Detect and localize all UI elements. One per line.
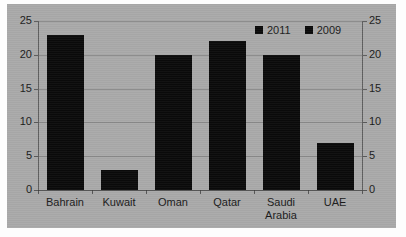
bar-uae: [317, 143, 354, 190]
y-tick-label-left-25: 25: [12, 15, 32, 26]
y-tick-label-right-10: 10: [369, 116, 391, 127]
y-tick-label-right-5: 5: [369, 150, 391, 161]
gridline-5: [38, 156, 362, 157]
y-tick-label-left-5: 5: [12, 150, 32, 161]
x-label-line: Bahrain: [38, 196, 92, 209]
y-tick-label-left-10: 10: [12, 116, 32, 127]
y-tick-label-left-15: 15: [12, 83, 32, 94]
gridline-15: [38, 89, 362, 90]
plot-area: [38, 21, 362, 190]
x-axis-label-saudi-arabia: SaudiArabia: [254, 196, 308, 222]
x-label-line: Saudi: [254, 196, 308, 209]
chart-plate: 2520151050 2520151050 BahrainKuwaitOmanQ…: [7, 4, 396, 228]
x-axis-category-labels: BahrainKuwaitOmanQatarSaudiArabiaUAE: [38, 196, 362, 228]
legend-item-2011[interactable]: 2011: [255, 25, 291, 36]
y-axis-left-labels: 2520151050: [7, 4, 32, 228]
x-label-line: Oman: [146, 196, 200, 209]
legend-label: 2009: [317, 25, 341, 36]
y-tick-right-10: [363, 122, 367, 123]
x-axis-label-uae: UAE: [308, 196, 362, 209]
y-tick-right-5: [363, 156, 367, 157]
bar-oman: [155, 55, 192, 190]
y-tick-right-0: [363, 190, 367, 191]
gridline-20: [38, 55, 362, 56]
gridline-25: [38, 21, 362, 22]
y-tick-label-right-25: 25: [369, 15, 391, 26]
x-label-line: Kuwait: [92, 196, 146, 209]
y-tick-label-right-0: 0: [369, 184, 391, 195]
y-tick-right-15: [363, 89, 367, 90]
y-tick-right-20: [363, 55, 367, 56]
y-axis-right-line: [362, 21, 363, 191]
y-tick-right-25: [363, 21, 367, 22]
gridline-10: [38, 122, 362, 123]
legend-item-2009[interactable]: 2009: [305, 25, 341, 36]
x-label-line: UAE: [308, 196, 362, 209]
chart-legend: 20112009: [255, 23, 341, 37]
bar-saudi-arabia: [263, 55, 300, 190]
legend-square-icon: [255, 26, 263, 34]
x-axis-label-oman: Oman: [146, 196, 200, 209]
x-axis-label-kuwait: Kuwait: [92, 196, 146, 209]
bar-kuwait: [101, 170, 138, 190]
x-axis-label-bahrain: Bahrain: [38, 196, 92, 209]
x-tick-6: [362, 190, 363, 194]
x-label-line: Arabia: [254, 209, 308, 222]
y-tick-label-right-15: 15: [369, 83, 391, 94]
x-axis-label-qatar: Qatar: [200, 196, 254, 209]
legend-square-icon: [305, 26, 313, 34]
axis-baseline: [38, 190, 362, 191]
bar-bahrain: [47, 35, 84, 190]
legend-label: 2011: [267, 25, 291, 36]
bar-qatar: [209, 41, 246, 190]
y-axis-right-labels: 2520151050: [369, 4, 399, 228]
x-label-line: Qatar: [200, 196, 254, 209]
chart-page: 2520151050 2520151050 BahrainKuwaitOmanQ…: [0, 0, 406, 237]
y-tick-label-left-0: 0: [12, 184, 32, 195]
y-tick-label-right-20: 20: [369, 49, 391, 60]
y-tick-label-left-20: 20: [12, 49, 32, 60]
